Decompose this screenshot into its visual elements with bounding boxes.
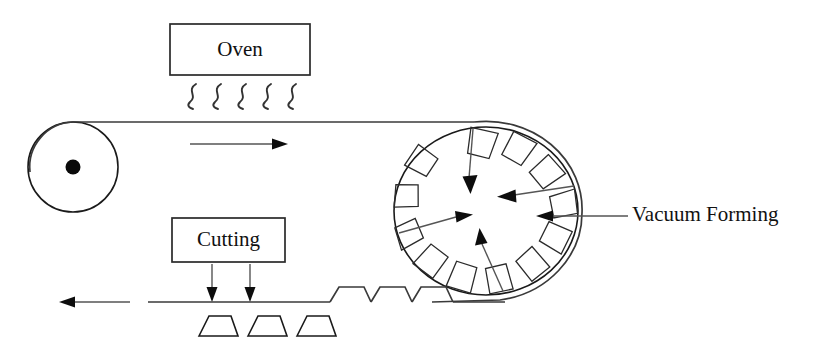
- cutting-station: Cutting: [172, 218, 285, 302]
- vacuum-arrow-right-upper-shaft: [514, 186, 574, 195]
- mold-cavity: [550, 189, 578, 218]
- formed-part-bump: [412, 287, 453, 302]
- vacuum-arrow-top-head-icon: [463, 175, 478, 194]
- cutting-arrows: [207, 264, 256, 302]
- cut-part: [199, 316, 238, 336]
- vacuum-arrow-bottom-head-icon: [475, 228, 488, 246]
- oven-label: Oven: [217, 37, 263, 61]
- oven-station: Oven: [170, 24, 310, 109]
- heat-wave-icon: [213, 84, 221, 109]
- drum-wrap-path: [432, 121, 582, 302]
- forming-drum-molds: [394, 127, 577, 293]
- vacuum-arrows: [399, 129, 574, 291]
- formed-part-bump: [371, 287, 412, 302]
- cut-part: [248, 316, 287, 336]
- vacuum-arrow-right-upper: [497, 186, 574, 203]
- heat-wave-icon: [263, 84, 271, 109]
- top-feed-arrow: [190, 139, 288, 150]
- vacuum-forming-label: Vacuum Forming: [632, 202, 779, 226]
- heat-wave-icon: [188, 84, 196, 109]
- cut-arrow-1-head-icon: [207, 287, 218, 302]
- vacuum-arrow-left-head-icon: [455, 211, 473, 223]
- mold-cavity: [529, 155, 565, 189]
- diagram-canvas: Oven: [0, 0, 816, 354]
- top-feed-arrow-head-icon: [272, 139, 288, 150]
- formed-parts-on-belt: [330, 287, 453, 302]
- vacuum-arrow-bottom: [475, 228, 503, 291]
- mold-cavity: [405, 145, 438, 177]
- formed-part-bump: [330, 287, 371, 302]
- vacuum-arrow-right-upper-head-icon: [497, 190, 517, 203]
- drum-wrap-line: [432, 121, 582, 302]
- thermoforming-diagram: Oven: [0, 0, 816, 354]
- vacuum-arrow-left-shaft: [399, 217, 456, 233]
- bottom-output-arrow-head-icon: [59, 297, 75, 308]
- cut-arrow-2-head-icon: [245, 287, 256, 302]
- unwind-roller-hub-icon: [66, 160, 81, 175]
- mold-cavity: [395, 218, 424, 250]
- cutting-label: Cutting: [197, 227, 261, 251]
- cut-arrow-2: [245, 264, 256, 302]
- oven-heat-waves: [188, 84, 296, 109]
- top-belt-path: [30, 122, 474, 172]
- forming-drum: [394, 127, 578, 295]
- cut-parts-row: [199, 316, 336, 336]
- cut-arrow-1: [207, 264, 218, 302]
- vacuum-arrow-left: [399, 211, 473, 233]
- vacuum-arrow-bottom-shaft: [482, 244, 503, 291]
- heat-wave-icon: [238, 84, 246, 109]
- heat-wave-icon: [288, 84, 296, 109]
- cut-part: [297, 316, 336, 336]
- mold-cavity: [502, 131, 537, 165]
- bottom-output-arrow: [59, 297, 130, 308]
- mold-cavity: [486, 264, 514, 294]
- mold-cavity: [413, 244, 448, 278]
- callout-arrow-head-icon: [536, 211, 553, 222]
